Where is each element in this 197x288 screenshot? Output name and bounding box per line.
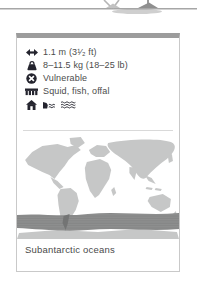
southeast-asia xyxy=(145,175,156,184)
coast-icon xyxy=(42,100,56,111)
europe xyxy=(89,145,110,157)
diet-value: Squid, fish, offal xyxy=(43,86,110,97)
distribution-map xyxy=(17,135,179,239)
australia xyxy=(148,194,171,212)
indonesia-2 xyxy=(155,188,162,191)
stat-row-habitat xyxy=(25,98,172,112)
status-vulnerable-icon xyxy=(25,73,38,84)
home-icon xyxy=(25,100,38,111)
antarctica xyxy=(17,229,179,239)
central-america xyxy=(50,177,63,189)
map-caption: Subantarctic oceans xyxy=(17,244,179,255)
stats-list: 1.1 m (3¹⁄₂ ft) 8–11.5 kg (18–25 lb) Vul… xyxy=(17,46,179,112)
stat-row-length: 1.1 m (3¹⁄₂ ft) xyxy=(25,46,172,59)
subantarctic-range-band xyxy=(17,213,179,231)
feet-shadow xyxy=(112,9,162,14)
africa xyxy=(85,159,111,198)
open-ocean-icon xyxy=(60,100,76,111)
length-arrows-icon xyxy=(25,47,38,58)
indonesia-1 xyxy=(146,187,153,190)
weight-icon xyxy=(25,60,38,71)
ground-line xyxy=(0,8,197,10)
india xyxy=(129,167,137,180)
bird-feet-illustration xyxy=(0,0,197,18)
right-webbed-foot xyxy=(138,3,158,9)
length-value: 1.1 m (3¹⁄₂ ft) xyxy=(43,47,97,58)
diet-icon xyxy=(25,86,38,97)
fact-card: 1.1 m (3¹⁄₂ ft) 8–11.5 kg (18–25 lb) Vul… xyxy=(16,33,180,272)
stat-row-diet: Squid, fish, offal xyxy=(25,85,172,98)
north-america xyxy=(25,144,81,179)
bird-feet-art xyxy=(0,0,197,18)
stat-row-weight: 8–11.5 kg (18–25 lb) xyxy=(25,59,172,72)
madagascar xyxy=(111,187,116,196)
weight-value: 8–11.5 kg (18–25 lb) xyxy=(43,60,128,71)
divider xyxy=(23,130,173,131)
asia xyxy=(108,139,175,178)
stat-row-status: Vulnerable xyxy=(25,72,172,85)
status-value: Vulnerable xyxy=(43,73,87,84)
